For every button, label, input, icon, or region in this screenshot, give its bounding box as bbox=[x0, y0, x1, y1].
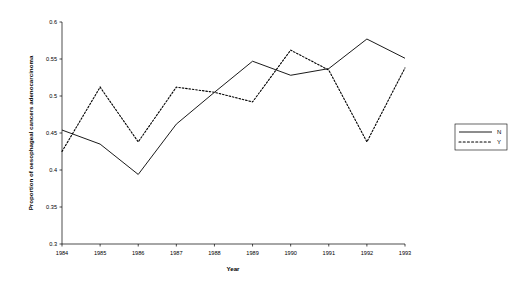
legend: N Y bbox=[455, 124, 507, 150]
x-tick-label: 1993 bbox=[399, 250, 411, 256]
chart-background bbox=[0, 0, 522, 286]
legend-border bbox=[455, 124, 507, 150]
legend-label-n: N bbox=[497, 129, 501, 135]
y-tick-label: 0.55 bbox=[46, 56, 57, 62]
x-tick-label: 1984 bbox=[56, 250, 68, 256]
x-tick-label: 1988 bbox=[208, 250, 220, 256]
y-tick-label: 0.4 bbox=[49, 167, 57, 173]
x-tick-label: 1986 bbox=[132, 250, 144, 256]
x-tick-label: 1987 bbox=[170, 250, 182, 256]
y-tick-label: 0.3 bbox=[49, 241, 57, 247]
x-tick-label: 1992 bbox=[361, 250, 373, 256]
y-tick-label: 0.35 bbox=[46, 204, 57, 210]
y-axis-title: Proportion of oesophageal cancers adenoc… bbox=[27, 55, 34, 210]
x-tick-label: 1991 bbox=[323, 250, 335, 256]
x-tick-label: 1985 bbox=[94, 250, 106, 256]
legend-label-y: Y bbox=[497, 139, 501, 145]
line-chart: 0.30.350.40.450.50.550.6 Proportion of o… bbox=[0, 0, 522, 286]
chart-figure: 0.30.350.40.450.50.550.6 Proportion of o… bbox=[0, 0, 522, 286]
x-tick-label: 1989 bbox=[246, 250, 258, 256]
y-tick-label: 0.6 bbox=[49, 19, 57, 25]
x-axis-title: Year bbox=[226, 265, 240, 272]
y-tick-label: 0.5 bbox=[49, 93, 57, 99]
x-tick-label: 1990 bbox=[284, 250, 296, 256]
y-tick-label: 0.45 bbox=[46, 130, 57, 136]
